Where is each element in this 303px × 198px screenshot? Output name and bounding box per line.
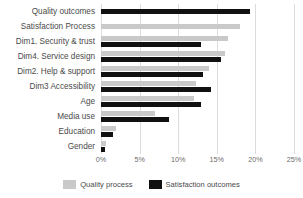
plot-area — [101, 4, 294, 154]
bar-satisfaction-outcomes — [101, 42, 201, 47]
bar-group — [101, 109, 294, 124]
x-tick-label: 5% — [134, 155, 144, 164]
category-label: Satisfaction Process — [0, 22, 95, 31]
bar-quality-process — [101, 66, 209, 71]
x-tick-label: 20% — [248, 155, 262, 164]
bar-satisfaction-outcomes — [101, 87, 211, 92]
bar-satisfaction-outcomes — [101, 102, 201, 107]
value-axis: 0%5%10%15%20%25% — [101, 155, 301, 167]
bar-group — [101, 94, 294, 109]
category-axis: Quality outcomesSatisfaction ProcessDim1… — [0, 4, 98, 154]
bar-quality-process — [101, 24, 240, 29]
legend-swatch-icon — [63, 180, 76, 189]
bar-quality-process — [101, 111, 155, 116]
bar-group — [101, 4, 294, 19]
bar-group — [101, 19, 294, 34]
bar-satisfaction-outcomes — [101, 9, 250, 14]
category-label: Dim4. Service design — [0, 52, 95, 61]
legend-label: Satisfaction outcomes — [166, 180, 240, 189]
bar-group — [101, 34, 294, 49]
bar-group — [101, 79, 294, 94]
x-tick-label: 10% — [171, 155, 185, 164]
category-label: Education — [0, 127, 95, 136]
category-label: Gender — [0, 142, 95, 151]
bar-group — [101, 64, 294, 79]
category-label: Quality outcomes — [0, 7, 95, 16]
bar-satisfaction-outcomes — [101, 132, 113, 137]
bar-quality-process — [101, 51, 225, 56]
gridline-25 — [294, 4, 295, 154]
bar-chart: Quality outcomesSatisfaction ProcessDim1… — [0, 0, 303, 198]
category-label: Age — [0, 97, 95, 106]
category-label: Dim2. Help & support — [0, 67, 95, 76]
category-label: Media use — [0, 112, 95, 121]
legend-item[interactable]: Quality process — [63, 180, 132, 189]
legend-swatch-icon — [149, 180, 162, 189]
bar-group — [101, 124, 294, 139]
bar-satisfaction-outcomes — [101, 147, 105, 152]
x-tick-label: 25% — [287, 155, 301, 164]
x-tick-label: 15% — [210, 155, 224, 164]
legend-label: Quality process — [80, 180, 132, 189]
bar-quality-process — [101, 141, 106, 146]
bar-satisfaction-outcomes — [101, 72, 203, 77]
bar-quality-process — [101, 126, 116, 131]
bar-quality-process — [101, 81, 196, 86]
category-label: Dim3 Accessibility — [0, 82, 95, 91]
bar-group — [101, 139, 294, 154]
category-label: Dim1. Security & trust — [0, 37, 95, 46]
bar-group — [101, 49, 294, 64]
bar-quality-process — [101, 96, 194, 101]
bar-quality-process — [101, 36, 228, 41]
chart-legend: Quality processSatisfaction outcomes — [0, 176, 303, 192]
bar-satisfaction-outcomes — [101, 117, 169, 122]
bar-satisfaction-outcomes — [101, 57, 221, 62]
x-tick-label: 0% — [96, 155, 106, 164]
legend-item[interactable]: Satisfaction outcomes — [149, 180, 240, 189]
